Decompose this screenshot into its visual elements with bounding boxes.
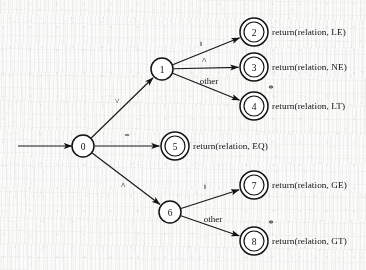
state-node-0[interactable]: 0 xyxy=(72,135,94,157)
state-number-label: 4 xyxy=(252,102,257,112)
action-label-s5: return(relation, EQ) xyxy=(193,141,268,151)
transition-edge-s0-s1 xyxy=(91,78,153,138)
state-node-1[interactable]: 1 xyxy=(151,58,173,80)
action-label-s2: return(relation, LE) xyxy=(272,27,346,37)
action-label-s7: return(relation, GE) xyxy=(272,180,347,190)
transition-edge-s1-s3 xyxy=(174,67,239,68)
state-node-6[interactable]: 6 xyxy=(159,201,181,223)
fsm-canvas: 012345678 <=>=>other=other**return(relat… xyxy=(0,0,366,270)
transition-diagram: 012345678 <=>=>other=other**return(relat… xyxy=(0,0,366,270)
state-node-2[interactable]: 2 xyxy=(240,18,268,46)
state-number-label: 8 xyxy=(252,237,257,247)
retract-marker-s8: * xyxy=(268,217,274,229)
state-node-8[interactable]: 8 xyxy=(240,227,268,255)
state-number-label: 0 xyxy=(81,142,86,152)
state-number-label: 6 xyxy=(168,208,173,218)
transition-edge-s6-s7 xyxy=(181,190,239,209)
transition-edge-s0-s6 xyxy=(92,153,160,205)
edge-label-t0-1: < xyxy=(112,98,122,103)
state-number-label: 5 xyxy=(173,142,178,152)
state-number-label: 3 xyxy=(252,63,257,73)
edge-label-t1-2: = xyxy=(196,41,206,46)
state-node-3[interactable]: 3 xyxy=(240,53,268,81)
edge-label-t0-5: = xyxy=(124,130,129,140)
state-node-4[interactable]: 4 xyxy=(240,92,268,120)
nodes-layer: 012345678 xyxy=(72,18,268,255)
retract-marker-s4: * xyxy=(268,82,274,94)
action-label-s3: return(relation, NE) xyxy=(272,62,347,72)
state-number-label: 1 xyxy=(160,65,165,75)
labels-layer: <=>=>other=other**return(relation, LE)re… xyxy=(112,27,347,246)
action-label-s8: return(relation, GT) xyxy=(272,236,347,246)
state-node-5[interactable]: 5 xyxy=(161,132,189,160)
edge-label-t1-4: other xyxy=(200,76,219,86)
edge-label-t6-7: = xyxy=(200,184,210,189)
edge-label-t6-8: other xyxy=(204,214,223,224)
state-number-label: 2 xyxy=(252,28,257,38)
edge-label-t1-3: > xyxy=(199,57,209,62)
state-node-7[interactable]: 7 xyxy=(240,171,268,199)
state-number-label: 7 xyxy=(252,181,257,191)
action-label-s4: return(relation, LT) xyxy=(272,101,345,111)
edge-label-t0-6: > xyxy=(118,182,128,187)
